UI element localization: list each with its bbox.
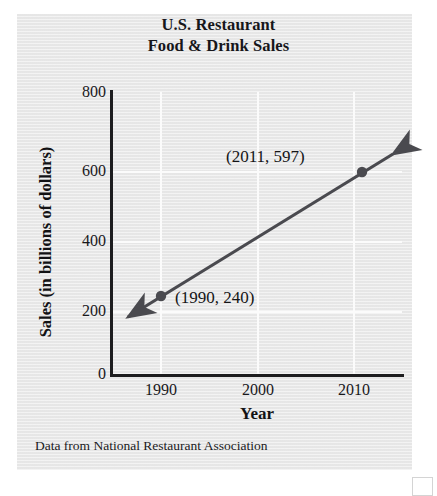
data-point-annotation-1990: (1990, 240): [175, 288, 254, 308]
x-axis-line: [110, 374, 404, 377]
gridline-vertical-2000: [257, 92, 259, 375]
x-tick-label-1990: 1990: [116, 381, 206, 399]
y-tick-label-400: 400: [54, 232, 106, 250]
corner-mark: [412, 477, 433, 496]
y-tick-label-600: 600: [54, 162, 106, 180]
y-tick-label-800: 800: [54, 83, 106, 101]
y-axis-line: [110, 90, 113, 377]
y-axis-tick-labels: 800 600 400 200 0: [50, 0, 106, 496]
plot-area: [112, 92, 402, 375]
x-tick-label-2010: 2010: [309, 381, 399, 399]
data-point-annotation-2011: (2011, 597): [226, 147, 305, 167]
gridline-vertical-2010: [353, 92, 355, 375]
source-caption: Data from National Restaurant Associatio…: [35, 438, 267, 454]
x-axis-title: Year: [112, 404, 402, 424]
y-tick-label-0: 0: [54, 365, 106, 383]
y-tick-label-200: 200: [54, 302, 106, 320]
y-axis-title: Sales (in billions of dollars): [36, 117, 56, 367]
x-tick-label-2000: 2000: [213, 381, 303, 399]
gridline-vertical-1990: [160, 92, 162, 375]
